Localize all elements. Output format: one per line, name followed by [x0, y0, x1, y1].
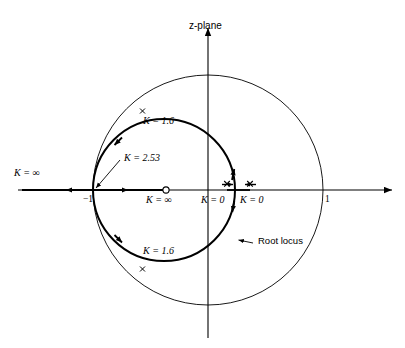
gain-marker-upper	[140, 109, 145, 114]
axis-tick-one: 1	[325, 195, 330, 205]
axis-tick-minus-one: −1	[83, 195, 93, 205]
leader-k-2p53	[96, 160, 120, 188]
axis-group	[18, 28, 392, 338]
label-k-infinity-left: K = ∞	[14, 168, 40, 178]
leader-lines	[96, 160, 253, 243]
zero-marker	[163, 187, 169, 193]
label-k-infinity-zero: K = ∞	[146, 195, 172, 205]
root-locus-figure: z-plane K = ∞ K = 2.53 K = ∞ K = 0 K = 0…	[0, 0, 405, 348]
label-k-zero-outer: K = 0	[240, 195, 263, 205]
label-k-1p6-lower: K = 1.6	[143, 246, 174, 256]
locus-arrow-right-lower	[232, 201, 234, 212]
label-root-locus: Root locus	[258, 236, 303, 246]
leader-root-locus	[239, 240, 254, 243]
real-axis-locus	[22, 185, 256, 191]
plot-canvas	[0, 0, 405, 348]
label-k-1p6-upper: K = 1.6	[143, 116, 174, 126]
plot-title: z-plane	[189, 21, 222, 31]
label-k-zero-inner: K = 0	[201, 195, 224, 205]
gain-marker-lower	[140, 267, 145, 272]
label-k-2p53: K = 2.53	[124, 153, 160, 163]
